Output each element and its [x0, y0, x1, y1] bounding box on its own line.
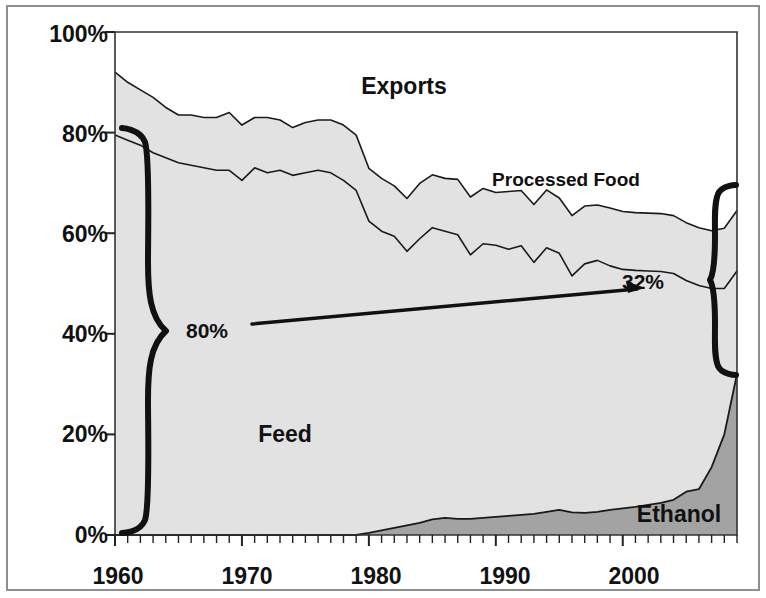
- feed-series-label: Feed: [258, 421, 312, 447]
- x-axis-label-1980: 1980: [350, 563, 401, 589]
- y-axis-label-100: 100%: [49, 21, 108, 47]
- x-axis-label-1970: 1970: [221, 563, 272, 589]
- y-axis-label-80: 80%: [62, 121, 108, 147]
- x-axis-label-1960: 1960: [92, 563, 143, 589]
- figure-container: 100% 80% 60% 40% 20% 0% 1960 1970 1980 1…: [0, 0, 766, 598]
- exports-series-label: Exports: [361, 73, 447, 99]
- y-axis-label-40: 40%: [62, 321, 108, 347]
- x-axis-label-1990: 1990: [479, 563, 530, 589]
- y-axis-label-60: 60%: [62, 221, 108, 247]
- corn-use-stacked-area-chart: 100% 80% 60% 40% 20% 0% 1960 1970 1980 1…: [0, 0, 766, 598]
- processed-food-series-label: Processed Food: [492, 169, 640, 190]
- y-axis-label-0: 0%: [75, 522, 108, 548]
- y-axis-tick-marks: [105, 32, 115, 535]
- y-axis-label-20: 20%: [62, 421, 108, 447]
- left-brace-value-label: 80%: [186, 319, 228, 342]
- ethanol-series-label: Ethanol: [637, 501, 721, 527]
- x-axis-tick-marks: [115, 535, 737, 546]
- x-axis-label-2000: 2000: [608, 563, 659, 589]
